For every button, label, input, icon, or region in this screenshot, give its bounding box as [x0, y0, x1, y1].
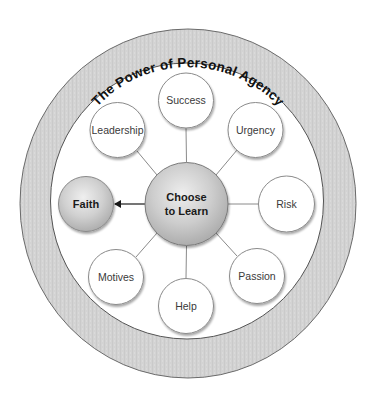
node-label: Help — [175, 300, 197, 312]
node-motives: Motives — [89, 250, 144, 305]
node-success: Success — [159, 73, 214, 128]
node-urgency: Urgency — [228, 103, 283, 158]
node-help: Help — [159, 279, 214, 334]
node-label: Passion — [238, 270, 276, 282]
node-risk: Risk — [259, 176, 315, 232]
node-faith: Faith — [59, 177, 114, 232]
center-label-line2: to Learn — [165, 205, 209, 217]
center-label-line1: Choose — [166, 191, 206, 203]
node-label: Motives — [98, 271, 134, 283]
node-leadership: Leadership — [90, 103, 145, 158]
node-choose-to-learn: Choose to Learn — [145, 163, 228, 246]
node-label: Urgency — [236, 124, 276, 136]
personal-agency-diagram: The Power of Personal Agency Success Urg… — [0, 0, 376, 398]
connector-success — [186, 128, 187, 163]
connector-help — [186, 246, 187, 279]
node-label: Risk — [276, 198, 297, 210]
node-label: Faith — [73, 198, 100, 210]
node-label: Success — [166, 94, 206, 106]
node-label: Leadership — [92, 124, 144, 136]
node-passion: Passion — [230, 249, 285, 304]
